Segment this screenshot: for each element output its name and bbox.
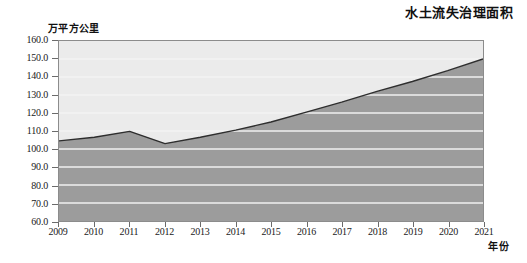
- y-tick-label: 80.0: [31, 181, 48, 191]
- x-tick-label: 2012: [155, 226, 174, 237]
- y-tick-label: 120.0: [26, 108, 48, 118]
- x-tick-mark: [129, 222, 130, 227]
- chart-title: 水土流失治理面积: [405, 2, 513, 21]
- x-tick-mark: [94, 222, 95, 227]
- y-tick-mark: [52, 149, 58, 150]
- x-axis-label: 年份: [488, 238, 509, 253]
- x-tick-mark: [307, 222, 308, 227]
- x-tick-label: 2020: [439, 226, 458, 237]
- y-tick-mark: [52, 95, 58, 96]
- y-tick-label: 100.0: [26, 144, 48, 154]
- y-tick-mark: [52, 113, 58, 114]
- y-tick-mark: [52, 131, 58, 132]
- y-tick-label: 140.0: [26, 71, 48, 81]
- x-tick-label: 2011: [120, 226, 139, 237]
- x-tick-mark: [200, 222, 201, 227]
- y-tick-label: 90.0: [31, 162, 48, 172]
- x-tick-label: 2016: [297, 226, 316, 237]
- x-tick-mark: [413, 222, 414, 227]
- y-tick-mark: [52, 58, 58, 59]
- x-tick-label: 2017: [332, 226, 351, 237]
- plot-area: [58, 40, 484, 222]
- y-tick-label: 130.0: [26, 90, 48, 100]
- y-tick-mark: [52, 204, 58, 205]
- x-tick-mark: [58, 222, 59, 227]
- y-tick-label: 70.0: [31, 199, 48, 209]
- x-tick-mark: [342, 222, 343, 227]
- x-tick-mark: [271, 222, 272, 227]
- x-tick-mark: [236, 222, 237, 227]
- y-tick-label: 150.0: [26, 53, 48, 63]
- area-chart-plot: [59, 41, 483, 221]
- y-tick-label: 110.0: [27, 126, 48, 136]
- x-tick-label: 2021: [474, 226, 493, 237]
- y-tick-label: 160.0: [26, 35, 48, 45]
- x-tick-mark: [378, 222, 379, 227]
- y-tick-mark: [52, 40, 58, 41]
- chart-container: 水土流失治理面积 万平方公里 年份 160.0150.0140.0130.012…: [0, 0, 527, 263]
- y-tick-mark: [52, 186, 58, 187]
- x-tick-mark: [484, 222, 485, 227]
- x-tick-label: 2014: [226, 226, 245, 237]
- x-tick-label: 2018: [368, 226, 387, 237]
- x-tick-mark: [165, 222, 166, 227]
- y-tick-mark: [52, 167, 58, 168]
- area-fill: [59, 59, 483, 221]
- x-tick-label: 2010: [84, 226, 103, 237]
- y-tick-label: 60.0: [31, 217, 48, 227]
- y-axis: 160.0150.0140.0130.0120.0110.0100.090.08…: [0, 0, 58, 263]
- x-tick-label: 2013: [190, 226, 209, 237]
- x-tick-label: 2009: [48, 226, 67, 237]
- x-tick-label: 2015: [261, 226, 280, 237]
- x-tick-label: 2019: [403, 226, 422, 237]
- x-tick-mark: [449, 222, 450, 227]
- y-tick-mark: [52, 76, 58, 77]
